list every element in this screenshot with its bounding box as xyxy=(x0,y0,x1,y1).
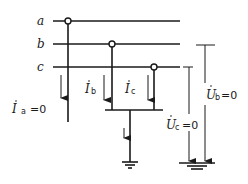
label-ia: I a =0 xyxy=(11,100,46,116)
label-ib: I b xyxy=(84,80,96,96)
svg-text:=0: =0 xyxy=(221,89,237,102)
ground-bar-icon xyxy=(179,163,215,169)
svg-text:=0: =0 xyxy=(182,119,198,132)
svg-text:b: b xyxy=(91,87,96,96)
bus-b-label: b xyxy=(37,37,45,51)
svg-text:a: a xyxy=(21,107,26,116)
svg-text:I: I xyxy=(124,82,130,96)
node-a xyxy=(65,18,71,24)
fault-circuit-diagram: a b c I a =0 I b I c xyxy=(0,0,248,184)
svg-text:b: b xyxy=(215,93,220,102)
svg-text:I: I xyxy=(84,82,90,96)
svg-text:I: I xyxy=(11,102,17,116)
svg-text:c: c xyxy=(131,87,135,96)
node-b xyxy=(109,41,115,47)
bus-a-label: a xyxy=(37,14,44,28)
label-ub: U b =0 xyxy=(206,85,237,102)
label-uc: U c =0 xyxy=(166,115,198,132)
svg-text:=0: =0 xyxy=(30,103,46,116)
node-c xyxy=(151,64,157,70)
svg-text:c: c xyxy=(175,123,179,132)
label-ic: I c xyxy=(124,80,135,96)
ground-icon xyxy=(122,162,138,168)
bus-c-label: c xyxy=(37,60,44,74)
